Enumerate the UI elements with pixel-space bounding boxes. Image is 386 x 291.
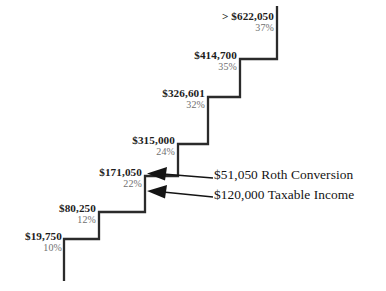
bracket-label-622050: > $622,050 37% [222, 11, 274, 34]
bracket-rate: 22% [99, 179, 142, 189]
callout-taxable-income: $120,000 Taxable Income [214, 187, 354, 203]
bracket-label-19750: $19,750 10% [25, 231, 62, 254]
bracket-label-326601: $326,601 32% [162, 88, 205, 111]
taxable-income-arrow-head [147, 185, 167, 199]
bracket-amount: $19,750 [25, 231, 62, 242]
bracket-rate: 24% [132, 147, 175, 157]
bracket-rate: 10% [25, 243, 62, 253]
bracket-label-315000: $315,000 24% [132, 135, 175, 158]
bracket-amount: $414,700 [194, 50, 237, 61]
callout-arrows-group [147, 167, 213, 199]
bracket-label-80250: $80,250 12% [59, 203, 96, 226]
bracket-rate: 37% [222, 23, 274, 33]
bracket-amount: $171,050 [99, 167, 142, 178]
tax-bracket-staircase-figure: $19,750 10% $80,250 12% $171,050 22% $31… [0, 0, 386, 291]
bracket-label-171050: $171,050 22% [99, 167, 142, 190]
taxable-income-arrow-line [163, 192, 213, 197]
roth-conversion-arrow-head [147, 167, 167, 181]
bracket-amount: $315,000 [132, 135, 175, 146]
bracket-rate: 12% [59, 215, 96, 225]
bracket-rate: 35% [194, 62, 237, 72]
bracket-amount: > $622,050 [222, 11, 274, 22]
callout-roth-conversion: $51,050 Roth Conversion [214, 167, 353, 183]
bracket-rate: 32% [162, 100, 205, 110]
bracket-label-414700: $414,700 35% [194, 50, 237, 73]
bracket-amount: $80,250 [59, 203, 96, 214]
bracket-amount: $326,601 [162, 88, 205, 99]
